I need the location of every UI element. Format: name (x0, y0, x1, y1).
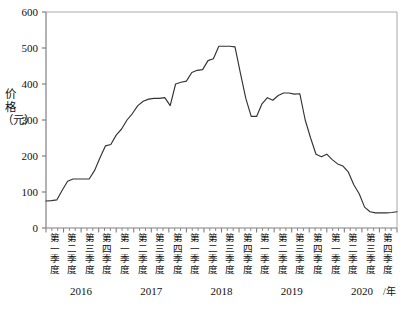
x-axis-quarter-label: 第一季度 (188, 233, 202, 275)
x-axis-quarter-label: 第三季度 (293, 233, 307, 275)
x-axis-quarter-label: 第二季度 (65, 233, 79, 275)
x-axis-quarter-label: 第一季度 (118, 233, 132, 275)
x-axis-year-label: 2016 (59, 285, 103, 297)
x-axis-quarter-label: 第三季度 (223, 233, 237, 275)
x-axis-year-label: 2020 (340, 285, 384, 297)
x-axis-quarter-label: 第三季度 (364, 233, 378, 275)
x-axis-year-label: 2019 (270, 285, 314, 297)
x-axis-year-label: 2017 (129, 285, 173, 297)
price-line-chart: 价格（元） 0100200300400500600 第一季度第二季度第三季度第四… (0, 0, 412, 312)
x-axis-quarter-label: 第四季度 (100, 233, 114, 275)
x-axis-unit-label: /年 (383, 286, 396, 298)
x-axis-quarter-label: 第一季度 (329, 233, 343, 275)
x-axis-quarter-label: 第一季度 (258, 233, 272, 275)
x-axis-quarter-label: 第四季度 (241, 233, 255, 275)
x-axis-quarter-label: 第二季度 (136, 233, 150, 275)
x-axis-quarter-label: 第二季度 (206, 233, 220, 275)
x-axis-quarter-label: 第二季度 (276, 233, 290, 275)
x-axis-quarter-label: 第三季度 (153, 233, 167, 275)
x-axis-quarter-label: 第一季度 (48, 233, 62, 275)
x-axis-year-label: 2018 (200, 285, 244, 297)
x-axis-quarter-label: 第四季度 (171, 233, 185, 275)
x-axis-quarter-label: 第四季度 (311, 233, 325, 275)
x-axis-quarter-label: 第三季度 (83, 233, 97, 275)
x-axis-quarter-label: 第二季度 (346, 233, 360, 275)
x-axis-quarter-label: 第四季度 (381, 233, 395, 275)
